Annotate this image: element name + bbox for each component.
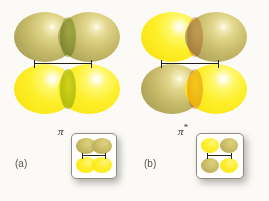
- panel-b-inset-top-left-lobe: [201, 138, 219, 153]
- panel-a-inset: [71, 133, 117, 179]
- panel-b-inset: [196, 133, 244, 179]
- panel-a-orbital-symbol-text: π: [58, 125, 64, 137]
- panel-a: π (a): [0, 0, 134, 201]
- panel-b-bottom-overlap: [187, 69, 203, 109]
- panel-b-bond-axis: [161, 63, 219, 64]
- panel-b-top-overlap: [187, 17, 203, 57]
- panel-b: π* (b): [134, 0, 269, 201]
- panel-a-caption: (a): [15, 158, 27, 169]
- panel-b-inset-bond-axis: [207, 155, 232, 156]
- panel-b-inset-bottom-left-lobe: [201, 158, 219, 173]
- panel-a-orbital-symbol: π: [58, 122, 64, 137]
- panel-b-inset-bottom-right-lobe: [220, 158, 238, 173]
- panel-b-inset-top-right-lobe: [220, 138, 238, 153]
- panel-a-inset-top-right-lobe: [92, 138, 112, 154]
- panel-a-bond-axis: [34, 63, 92, 64]
- panel-a-inset-bond-axis: [82, 155, 106, 156]
- figure-canvas: π (a) π*: [0, 0, 269, 201]
- panel-b-orbital-symbol: π*: [178, 122, 189, 137]
- panel-b-orbital-symbol-star: *: [184, 122, 189, 132]
- panel-a-inset-bottom-right-lobe: [92, 157, 112, 173]
- panel-b-caption: (b): [144, 158, 156, 169]
- panel-a-bottom-overlap: [60, 69, 76, 109]
- panel-a-top-overlap: [60, 17, 76, 57]
